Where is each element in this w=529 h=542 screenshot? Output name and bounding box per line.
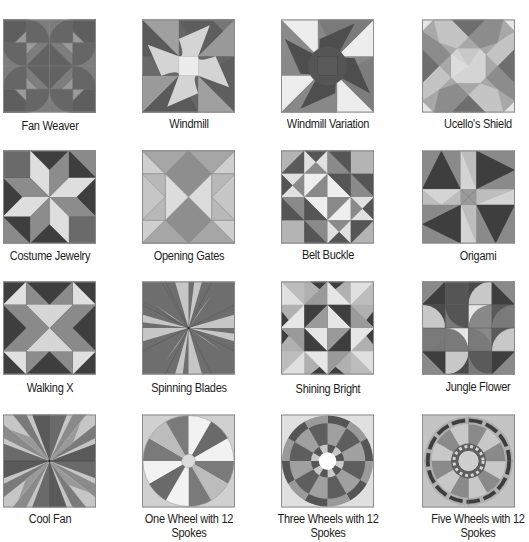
block-label: Five Wheels with 12 Spokes: [416, 512, 529, 540]
five-wheels-pattern: [422, 413, 515, 509]
block-label: Walking X: [0, 381, 112, 395]
block-label: Windmill: [127, 117, 250, 131]
block-label: Cool Fan: [0, 512, 112, 526]
block-windmill-variation: [281, 18, 374, 114]
block-belt-buckle: [281, 149, 374, 245]
block-shining-bright: [281, 280, 374, 376]
block-label: Belt Buckle: [266, 248, 389, 262]
block-label: Three Wheels with 12 Spokes: [266, 512, 389, 540]
block-label: Ucello's Shield: [416, 117, 529, 131]
block-label: Opening Gates: [127, 249, 250, 263]
costume-jewelry-pattern: [3, 149, 96, 245]
shining-bright-pattern: [281, 280, 374, 376]
label-line-1: Five Wheels with 12: [431, 512, 524, 526]
block-origami: [422, 149, 515, 245]
block-label: Jungle Flower: [416, 380, 529, 394]
spinning-blades-pattern: [142, 280, 235, 376]
one-wheel-pattern: [142, 413, 235, 509]
block-walking-x: [3, 280, 96, 376]
block-label: Origami: [416, 249, 529, 263]
block-label: One Wheel with 12 Spokes: [127, 512, 250, 540]
cool-fan-pattern: [3, 413, 96, 509]
three-wheels-pattern: [281, 413, 374, 509]
block-label: Windmill Variation: [266, 117, 389, 131]
block-spinning-blades: [142, 280, 235, 376]
label-line-2: Spokes: [460, 526, 495, 540]
block-label: Shining Bright: [266, 382, 389, 396]
block-costume-jewelry: [3, 149, 96, 245]
origami-pattern: [422, 149, 515, 245]
block-windmill: [142, 18, 235, 114]
label-line-2: Spokes: [171, 526, 206, 540]
block-cool-fan: [3, 413, 96, 509]
block-label: Costume Jewelry: [0, 249, 112, 263]
block-ucellos-shield: [422, 18, 515, 114]
block-one-wheel-12-spokes: [142, 413, 235, 509]
jungle-flower-pattern: [422, 280, 515, 376]
belt-buckle-pattern: [281, 149, 374, 245]
block-jungle-flower: [422, 280, 515, 376]
walking-x-pattern: [3, 280, 96, 376]
block-label: Spinning Blades: [127, 381, 250, 395]
block-opening-gates: [142, 149, 235, 245]
ucellos-shield-pattern: [422, 18, 515, 114]
block-three-wheels-12-spokes: [281, 413, 374, 509]
label-line-2: Spokes: [310, 526, 345, 540]
opening-gates-pattern: [142, 149, 235, 245]
windmill-variation-pattern: [281, 18, 374, 114]
block-label: Fan Weaver: [0, 119, 112, 133]
windmill-pattern: [142, 18, 235, 114]
block-five-wheels-12-spokes: [422, 413, 515, 509]
fan-weaver-pattern: [3, 18, 96, 114]
block-fan-weaver: [3, 18, 96, 114]
label-line-1: One Wheel with 12: [145, 512, 233, 526]
label-line-1: Three Wheels with 12: [277, 512, 378, 526]
